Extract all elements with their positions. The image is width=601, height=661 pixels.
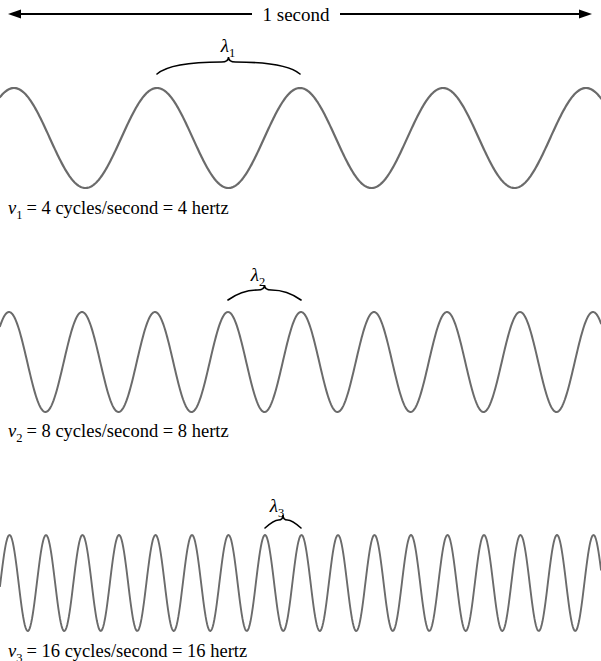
frequency-label-2: ν2= 8 cycles/second = 8 hertz xyxy=(8,421,229,445)
wave-frequency-diagram: 1 second λ1ν1= 4 cycles/second = 4 hertz… xyxy=(0,0,601,661)
wavelength-label-1: λ1 xyxy=(220,35,235,60)
frequency-label-3: ν3= 16 cycles/second = 16 hertz xyxy=(8,641,247,661)
frequency-text-3: = 16 cycles/second = 16 hertz xyxy=(26,641,247,661)
nu-subscript-1: 1 xyxy=(16,208,22,222)
timeline-annotation: 1 second xyxy=(8,4,592,25)
wave-group-3: λ3ν3= 16 cycles/second = 16 hertz xyxy=(0,495,601,661)
waves-layer: λ1ν1= 4 cycles/second = 4 hertzλ2ν2= 8 c… xyxy=(0,35,601,661)
nu-subscript-3: 3 xyxy=(16,651,22,661)
wave-curve-3 xyxy=(0,535,601,631)
nu-subscript-2: 2 xyxy=(16,431,22,445)
wave-group-2: λ2ν2= 8 cycles/second = 8 hertz xyxy=(0,264,601,445)
wave-curve-2 xyxy=(0,312,601,412)
wavelength-label-2: λ2 xyxy=(250,264,265,289)
arrow-right-icon xyxy=(579,10,592,19)
wave-curve-1 xyxy=(0,88,601,188)
frequency-text-2: = 8 cycles/second = 8 hertz xyxy=(26,421,228,441)
arrow-left-icon xyxy=(8,10,21,19)
frequency-label-1: ν1= 4 cycles/second = 4 hertz xyxy=(8,198,229,222)
wave-group-1: λ1ν1= 4 cycles/second = 4 hertz xyxy=(0,35,601,222)
frequency-text-1: = 4 cycles/second = 4 hertz xyxy=(26,198,228,218)
timeline-label: 1 second xyxy=(262,4,330,25)
wavelength-label-3: λ3 xyxy=(269,495,284,520)
